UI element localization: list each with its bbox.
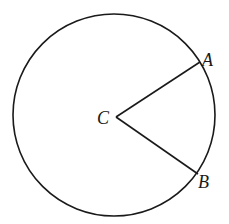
circle-diagram: C A B: [0, 0, 229, 224]
label-center-c: C: [97, 108, 110, 128]
radius-cb: [116, 117, 198, 174]
label-point-a: A: [201, 50, 214, 70]
label-point-b: B: [198, 172, 209, 192]
circle: [13, 14, 215, 216]
radius-ca: [116, 62, 200, 117]
